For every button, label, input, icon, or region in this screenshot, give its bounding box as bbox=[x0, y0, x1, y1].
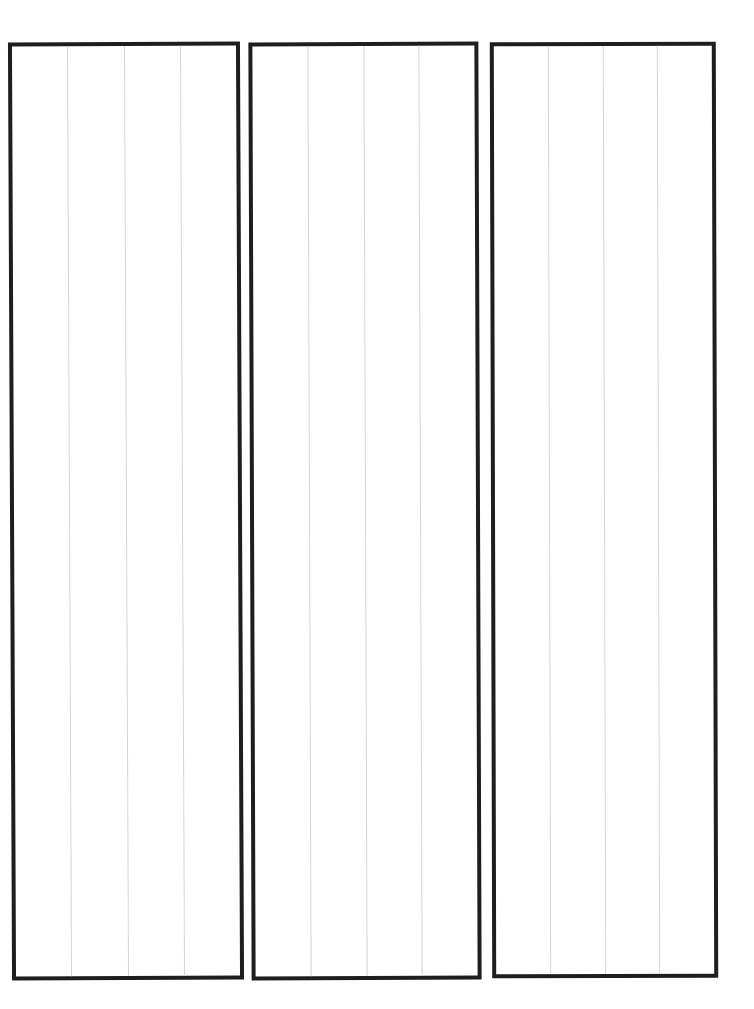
column-2 bbox=[308, 46, 367, 976]
ruled-panel-3 bbox=[490, 42, 718, 979]
column-4 bbox=[181, 46, 240, 976]
ruled-panel-1 bbox=[8, 41, 244, 980]
column-1 bbox=[252, 46, 311, 976]
column-3 bbox=[124, 46, 184, 976]
column-1 bbox=[12, 46, 72, 976]
column-3 bbox=[603, 46, 660, 974]
ruled-panel-2 bbox=[248, 42, 481, 981]
column-4 bbox=[658, 46, 714, 974]
column-2 bbox=[68, 46, 128, 976]
column-3 bbox=[364, 46, 423, 976]
column-2 bbox=[549, 46, 606, 974]
column-4 bbox=[420, 46, 478, 976]
column-1 bbox=[494, 46, 551, 974]
